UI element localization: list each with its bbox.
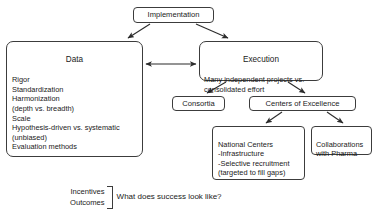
node-collaborations-with-pharma[interactable]: Collaborations with Pharma xyxy=(311,126,372,155)
node-collaborations-with-pharma-body: Collaborations with Pharma xyxy=(316,140,367,159)
node-implementation[interactable]: Implementation xyxy=(133,7,214,23)
node-consortia-label: Consortia xyxy=(182,99,215,109)
node-execution-body: Many independent projects vs. consolidat… xyxy=(204,75,318,94)
node-execution-title: Execution xyxy=(204,55,318,66)
footer-incentives-label: Incentives xyxy=(70,187,104,198)
node-execution[interactable]: Execution Many independent projects vs. … xyxy=(199,41,323,81)
footer-label-stack: Incentives Outcomes xyxy=(70,187,105,208)
diagram-canvas: Implementation Data Rigor Standardizatio… xyxy=(0,0,374,224)
footer-group: Incentives Outcomes What does success lo… xyxy=(70,186,222,209)
arrow-coe-to-national-centers xyxy=(266,112,282,123)
node-national-centers[interactable]: National Centers -Infrastructure -Select… xyxy=(212,126,305,180)
footer-bracket-icon xyxy=(107,186,113,209)
node-centers-of-excellence[interactable]: Centers of Excellence xyxy=(249,96,356,111)
node-data-body: Rigor Standardization Harmonization (dep… xyxy=(12,75,137,152)
node-data[interactable]: Data Rigor Standardization Harmonization… xyxy=(6,41,143,157)
node-centers-of-excellence-label: Centers of Excellence xyxy=(266,99,340,109)
footer-question-text: What does success look like? xyxy=(117,192,222,203)
node-consortia[interactable]: Consortia xyxy=(172,96,225,111)
node-data-title: Data xyxy=(12,55,137,66)
footer-outcomes-label: Outcomes xyxy=(70,198,105,209)
arrow-implementation-to-data xyxy=(128,24,150,38)
node-implementation-label: Implementation xyxy=(148,10,200,20)
arrow-implementation-to-execution xyxy=(196,24,228,38)
node-national-centers-body: National Centers -Infrastructure -Select… xyxy=(218,140,299,178)
arrow-coe-to-collaborations xyxy=(327,112,343,123)
